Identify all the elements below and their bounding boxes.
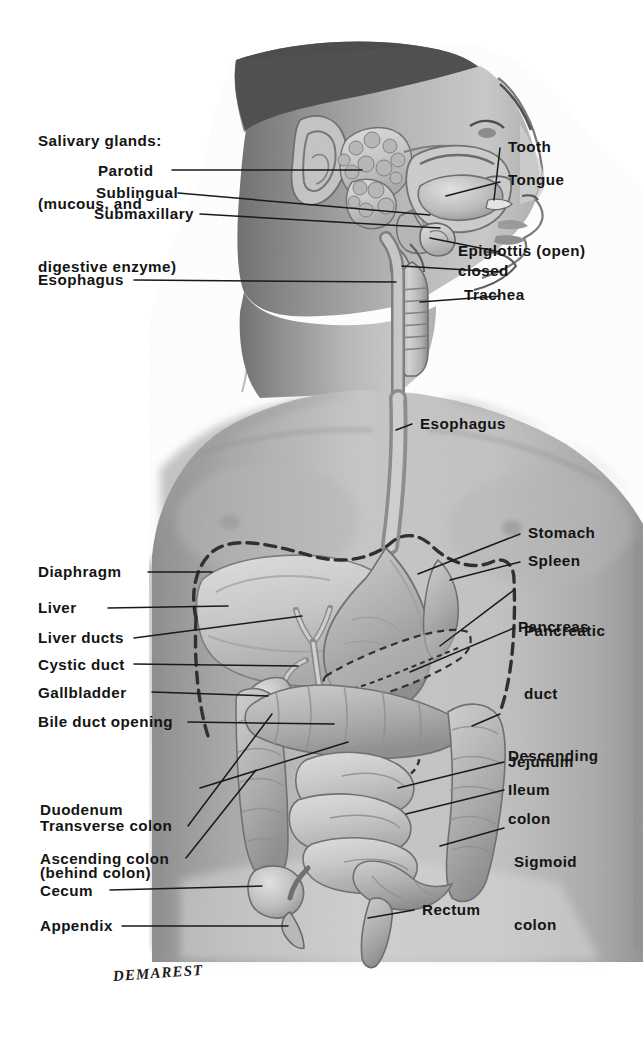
label-pancreas: Pancreas <box>518 617 589 637</box>
label-esophagus-chest: Esophagus <box>420 414 506 434</box>
label-trachea: Trachea <box>464 285 525 305</box>
label-cystic-duct: Cystic duct <box>38 655 125 675</box>
sigmoid-colon-line-1: Sigmoid <box>514 851 577 872</box>
label-gallbladder: Gallbladder <box>38 683 127 703</box>
label-stomach: Stomach <box>528 523 595 543</box>
pancreatic-duct-line-2: duct <box>524 683 605 704</box>
label-layer: Salivary glands: (mucous, and digestive … <box>0 0 643 1047</box>
label-bile-duct-opening: Bile duct opening <box>38 712 173 732</box>
label-epiglottis-open: Epiglottis (open) <box>458 241 585 261</box>
label-parotid: Parotid <box>98 161 153 181</box>
label-sigmoid-colon: Sigmoid colon <box>514 809 577 977</box>
label-tooth: Tooth <box>508 137 551 157</box>
label-diaphragm: Diaphragm <box>38 562 121 582</box>
label-rectum: Rectum <box>422 900 480 920</box>
label-cecum: Cecum <box>40 881 93 901</box>
label-submaxillary: Submaxillary <box>94 204 194 224</box>
label-appendix: Appendix <box>40 916 113 936</box>
label-transverse-colon: Transverse colon <box>40 816 172 836</box>
label-esophagus-neck: Esophagus <box>38 270 124 290</box>
label-epiglottis-closed: closed <box>458 261 509 281</box>
label-ileum: Ileum <box>508 780 550 800</box>
label-sublingual: Sublingual <box>96 183 178 203</box>
label-liver-ducts: Liver ducts <box>38 628 124 648</box>
label-spleen: Spleen <box>528 551 581 571</box>
label-ascending-colon: Ascending colon <box>40 849 169 869</box>
label-liver: Liver <box>38 598 77 618</box>
label-jejunum: Jejunum <box>508 752 574 772</box>
salivary-line-1: Salivary glands: <box>38 130 176 151</box>
digestive-system-figure: Salivary glands: (mucous, and digestive … <box>0 0 643 1047</box>
label-tongue: Tongue <box>508 170 564 190</box>
sigmoid-colon-line-2: colon <box>514 914 577 935</box>
artist-signature: DEMAREST <box>112 962 203 985</box>
